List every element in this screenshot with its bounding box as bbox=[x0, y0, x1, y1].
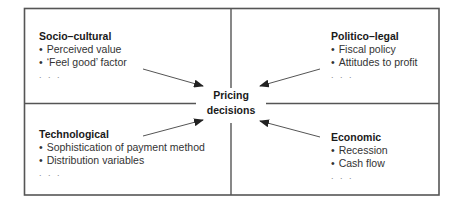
list-item: Distribution variables bbox=[39, 154, 205, 167]
center-label-line2: decisions bbox=[196, 103, 266, 118]
ellipsis: . . . bbox=[39, 167, 205, 180]
list-item: Perceived value bbox=[39, 43, 127, 56]
quadrant-title: Economic bbox=[331, 131, 388, 144]
quadrant-title: Technological bbox=[39, 128, 205, 141]
list-item: Fiscal policy bbox=[331, 43, 417, 56]
arrow-bottom-right bbox=[260, 121, 320, 137]
quadrant-socio-cultural: Socio–cultural Perceived value ‘Feel goo… bbox=[39, 30, 127, 82]
list-item: Attitudes to profit bbox=[331, 56, 417, 69]
list-item: Cash flow bbox=[331, 157, 388, 170]
list-item: Recession bbox=[331, 144, 388, 157]
quadrant-title: Politico–legal bbox=[331, 30, 417, 43]
center-label-line1: Pricing bbox=[196, 88, 266, 103]
quadrant-title: Socio–cultural bbox=[39, 30, 127, 43]
ellipsis: . . . bbox=[331, 69, 417, 82]
list-item: ‘Feel good’ factor bbox=[39, 56, 127, 69]
quadrant-politico-legal: Politico–legal Fiscal policy Attitudes t… bbox=[331, 30, 417, 82]
arrow-top-left bbox=[143, 69, 203, 86]
ellipsis: . . . bbox=[39, 69, 127, 82]
quadrant-economic: Economic Recession Cash flow . . . bbox=[331, 131, 388, 183]
ellipsis: . . . bbox=[331, 170, 388, 183]
center-label-pricing-decisions: Pricing decisions bbox=[196, 88, 266, 118]
list-item: Sophistication of payment method bbox=[39, 141, 205, 154]
arrow-top-right bbox=[260, 69, 320, 86]
quadrant-technological: Technological Sophistication of payment … bbox=[39, 128, 205, 180]
